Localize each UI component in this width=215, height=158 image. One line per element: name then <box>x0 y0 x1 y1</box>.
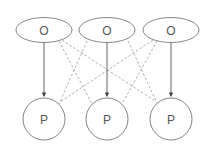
diagram-canvas: O O O P P P <box>0 0 215 158</box>
node-label: O <box>166 24 175 38</box>
node-o3: O <box>143 18 199 43</box>
node-label: O <box>102 24 111 38</box>
edge-o3-p2 <box>122 41 157 104</box>
node-o2: O <box>79 18 135 43</box>
edge-o2-p3 <box>128 41 157 103</box>
edge-o2-p1 <box>59 41 87 104</box>
dashed-edges <box>59 40 157 104</box>
node-label: P <box>167 113 175 127</box>
node-p1: P <box>23 98 65 140</box>
node-o1: O <box>16 18 72 43</box>
node-p2: P <box>86 98 128 140</box>
node-label: O <box>39 24 48 38</box>
edge-o1-p2 <box>59 41 92 104</box>
node-label: P <box>103 113 111 127</box>
node-label: P <box>40 113 48 127</box>
node-p3: P <box>150 98 192 140</box>
